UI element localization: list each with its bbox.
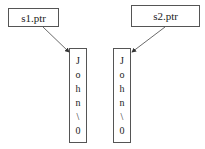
s1-arrow	[43, 27, 69, 52]
pointer-arrows	[0, 0, 205, 149]
s2-arrow	[132, 27, 165, 52]
